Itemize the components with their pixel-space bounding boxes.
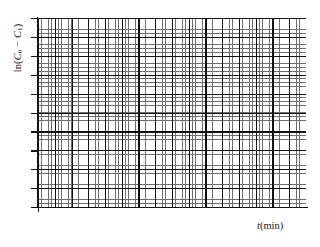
y-label-suffix: ) <box>12 24 23 28</box>
y-axis-line <box>37 17 38 208</box>
y-axis-label: ln(C0 − C1) <box>12 6 24 90</box>
y-axis-tick <box>31 131 37 132</box>
y-axis-tick <box>31 207 37 208</box>
y-label-space2 <box>12 38 23 41</box>
x-axis-label: t(min) <box>257 220 283 231</box>
y-axis-tick <box>31 37 37 38</box>
y-label-sub1: 0 <box>16 50 24 54</box>
y-axis-tick <box>31 75 37 76</box>
y-label-prefix: ln( <box>12 60 23 72</box>
y-axis-tick <box>31 113 37 114</box>
x-label-unit: (min) <box>260 220 283 231</box>
x-axis-tick-major <box>38 207 39 212</box>
x-axis-line <box>36 207 308 208</box>
y-label-op-glyph: − <box>12 41 23 47</box>
y-label-sub2: 1 <box>16 27 24 31</box>
y-axis-tick <box>31 169 37 170</box>
major-gridlines <box>38 18 306 207</box>
y-axis-tick <box>31 150 37 151</box>
y-axis-tick <box>31 18 37 19</box>
y-axis-tick <box>31 188 37 189</box>
y-label-var2: C <box>12 31 23 38</box>
y-axis-tick <box>31 56 37 57</box>
figure-canvas: ln(C0 − C1) t(min) <box>0 0 320 247</box>
y-label-operator <box>12 47 23 50</box>
y-axis-tick <box>31 94 37 95</box>
plot-area <box>38 18 306 207</box>
y-label-var1: C <box>12 53 23 60</box>
